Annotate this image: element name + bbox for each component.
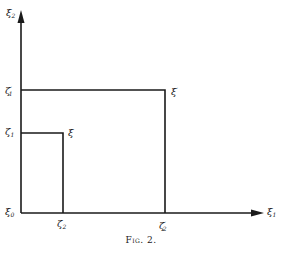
diagram-canvas [0, 0, 282, 253]
y-tick-zeta1-prime: ζ′1 [5, 84, 13, 99]
origin-subscript: 0 [11, 211, 15, 218]
small-rectangle [21, 133, 63, 213]
y-tick-zeta1: ζ1 [5, 127, 14, 140]
y-tick-subscript: 1 [9, 90, 13, 97]
vertical-axis-subscript: 2 [12, 12, 16, 19]
horizontal-axis-subscript: 1 [273, 211, 277, 218]
vertical-axis-arrow-icon [18, 10, 25, 23]
large-rectangle [21, 90, 165, 213]
point-symbol: ξ [68, 127, 74, 138]
x-tick-subscript: 2 [163, 225, 167, 232]
origin-label: ξ0 [5, 207, 14, 220]
horizontal-axis-label: ξ1 [267, 207, 276, 220]
y-tick-subscript: 1 [10, 131, 14, 138]
point-xi-prime: ξ′ [171, 85, 178, 97]
figure-caption: Fig. 2. [0, 235, 282, 245]
x-tick-subscript: 2 [62, 223, 66, 230]
x-tick-zeta2: ζ2 [57, 219, 66, 232]
point-prime: ′ [177, 86, 178, 93]
point-xi: ξ [68, 128, 74, 138]
vertical-axis-label: ξ2 [6, 8, 15, 21]
horizontal-axis-arrow-icon [251, 210, 264, 217]
x-tick-zeta2-prime: ζ′2 [159, 219, 167, 234]
